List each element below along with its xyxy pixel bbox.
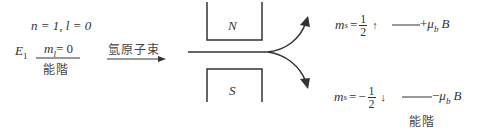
mu-subscript: b [446, 96, 451, 106]
spin-down-arrow-icon: ↓ [381, 91, 387, 103]
lower-energy: −μbB [432, 88, 461, 106]
north-pole-label: N [228, 18, 237, 34]
ms-symbol: m [334, 89, 343, 105]
energy-label: E1 [15, 43, 27, 61]
ml-value: = 0 [56, 41, 73, 56]
field-symbol: B [453, 88, 461, 103]
equals-sign: = [350, 17, 357, 33]
spin-fraction: 12 [368, 85, 376, 110]
upper-beam-arrow-icon [300, 16, 310, 27]
fraction-denominator: 2 [359, 26, 367, 38]
equals-sign: = [349, 89, 356, 105]
spin-up-arrow-icon: ↑ [372, 19, 378, 31]
energy-symbol: E [15, 43, 23, 58]
field-symbol: B [441, 16, 449, 31]
lower-beam-path [268, 52, 306, 82]
ms-symbol: m [335, 17, 344, 33]
fraction-numerator: 1 [359, 13, 367, 26]
mu-subscript: b [434, 24, 439, 34]
lower-beam-arrow-icon [300, 78, 310, 89]
upper-beam-path [268, 22, 306, 52]
fraction-numerator: 1 [368, 85, 376, 98]
lower-state-equation: ms = − 12 ↓ [334, 82, 386, 112]
upper-state-equation: ms = 12 ↑ [335, 10, 378, 40]
south-pole-label: S [229, 83, 236, 99]
ms-subscript: s [344, 20, 348, 30]
beam-label: 氫原子束 [108, 40, 160, 57]
right-level-label: 能階 [409, 112, 435, 129]
energy-subscript: 1 [23, 51, 28, 61]
fraction-denominator: 2 [368, 98, 376, 110]
ml-equation: ml= 0 [44, 41, 73, 59]
ms-subscript: s [343, 92, 347, 102]
spin-fraction: 12 [359, 13, 367, 38]
quantum-numbers: n = 1, l = 0 [31, 18, 91, 34]
left-level-label: 能階 [43, 60, 69, 77]
negative-sign: − [358, 89, 365, 105]
upper-energy: +μbB [420, 16, 449, 34]
ml-symbol: m [44, 41, 53, 56]
